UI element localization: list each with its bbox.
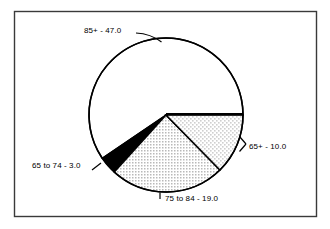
pie-label-85-plus: 85+ - 47.0 <box>84 26 121 36</box>
pie-label-65-plus: 65+ - 10.0 <box>249 142 286 152</box>
pie-label-75-to-84: 75 to 84 - 19.0 <box>165 194 218 204</box>
leader-line-65-plus <box>240 137 247 145</box>
pie-label-65-to-74: 65 to 74 - 3.0 <box>32 161 81 171</box>
leader-line-65-plus-lower <box>240 144 247 152</box>
leader-line-65-to-74 <box>92 163 101 170</box>
pie-chart-figure: 85+ - 47.0 65+ - 10.0 75 to 84 - 19.0 65… <box>0 0 330 229</box>
